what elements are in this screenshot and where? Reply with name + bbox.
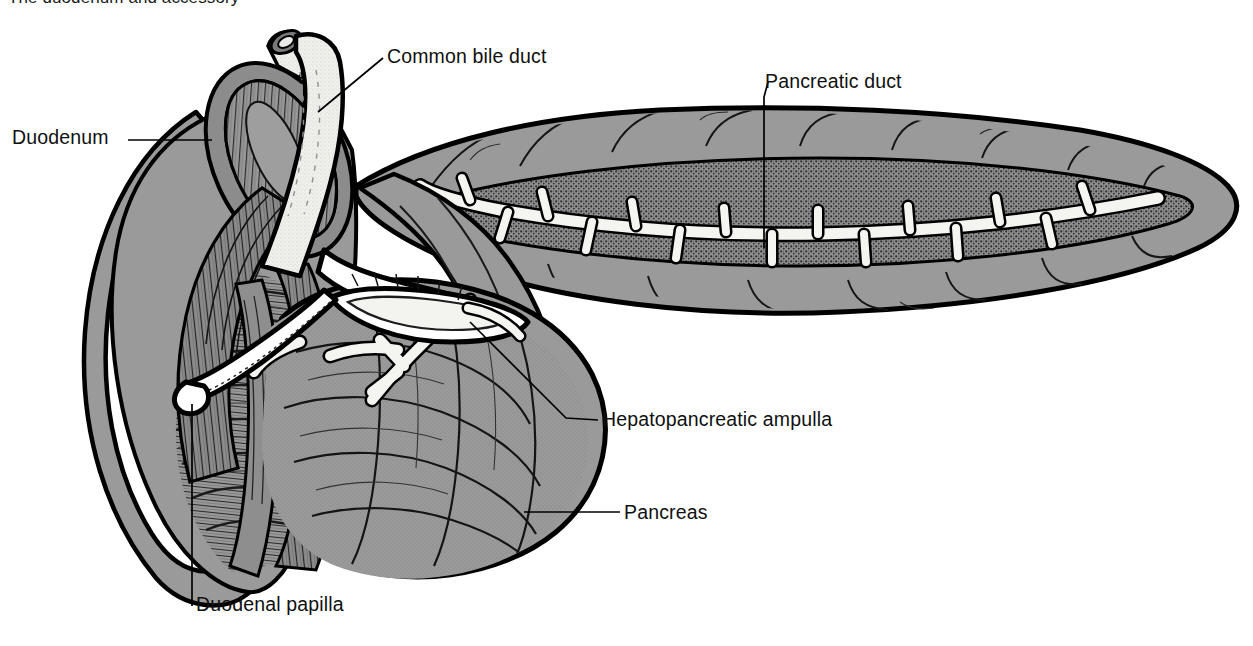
label-duodenum: Duodenum bbox=[12, 128, 109, 148]
label-hepatopancreatic-ampulla: Hepatopancreatic ampulla bbox=[602, 410, 832, 430]
label-duodenal-papilla: Duodenal papilla bbox=[196, 595, 344, 615]
anatomy-figure: The duodenum and accessory bbox=[0, 0, 1253, 646]
label-pancreatic-duct: Pancreatic duct bbox=[765, 72, 902, 92]
anatomy-illustration bbox=[0, 0, 1253, 646]
label-pancreas: Pancreas bbox=[624, 503, 708, 523]
label-common-bile-duct: Common bile duct bbox=[387, 47, 547, 67]
